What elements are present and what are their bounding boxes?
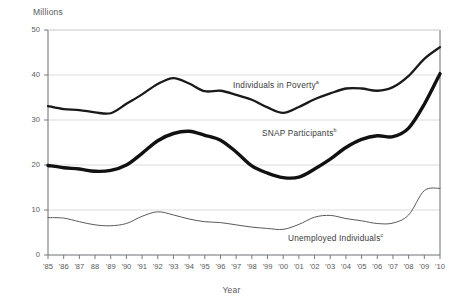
series-label-unemployed-individuals: Unemployed Individualsc [288,233,383,243]
series-line-unemployed-individuals [48,188,440,230]
footnote-marker-b: b [334,127,337,133]
series-label-individuals-in-poverty: Individuals in Povertya [233,80,319,90]
y-tick-label-50: 50 [16,25,40,34]
y-tick-label-0: 0 [16,250,40,259]
axis-frame-group [48,30,440,255]
x-axis-title: Year [0,285,463,295]
y-tick-label-10: 10 [16,205,40,214]
y-tick-label-40: 40 [16,70,40,79]
gridlines-group [48,30,440,255]
chart-plot-area [0,0,463,307]
y-tick-label-30: 30 [16,115,40,124]
x-tick-marks-group [44,30,440,259]
series-lines-group [48,47,440,229]
x-tick-label-10: '10 [429,262,451,271]
footnote-marker-c: c [381,232,384,238]
series-label-snap-participants: SNAP Participantsb [262,128,337,138]
footnote-marker-a: a [316,79,319,85]
poverty-snap-unemployment-line-chart: Millions 01020304050 '85'86'8788'89'90'9… [0,0,463,307]
y-tick-label-20: 20 [16,160,40,169]
